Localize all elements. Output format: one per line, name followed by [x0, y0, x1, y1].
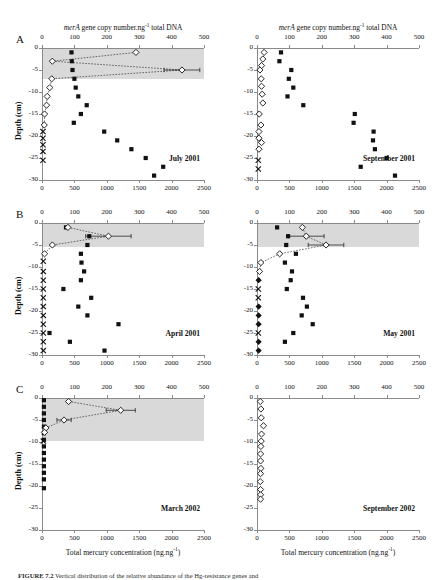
top-axis-tick	[204, 220, 205, 223]
y-axis-tick	[39, 508, 42, 509]
marker-filled-square	[283, 261, 287, 265]
bottom-axis-tick	[139, 530, 140, 533]
bottom-axis-tick-label: 1500	[340, 184, 368, 192]
marker-open-diamond	[257, 471, 263, 477]
y-axis-tick	[254, 48, 257, 49]
marker-filled-square	[79, 112, 83, 116]
y-axis-tick-label: -30	[16, 525, 38, 533]
top-axis-tick-label: 100	[60, 208, 88, 216]
y-axis-tick-label: -5	[231, 65, 253, 73]
top-axis-tick-label: 500	[405, 33, 433, 41]
bottom-axis-tick	[289, 180, 290, 183]
y-axis-tick-label: -30	[231, 350, 253, 358]
marker-filled-square	[82, 269, 86, 273]
y-axis-line	[257, 398, 258, 530]
bottom-axis-tick	[74, 180, 75, 183]
marker-open-diamond	[44, 93, 50, 99]
top-axis-tick-label: 400	[158, 208, 186, 216]
marker-filled-square	[47, 331, 51, 335]
bottom-axis-tick-label: 2000	[158, 184, 186, 192]
bottom-axis-tick	[74, 530, 75, 533]
marker-open-diamond	[257, 479, 263, 485]
bottom-axis-tick-label: 1500	[125, 184, 153, 192]
marker-filled-square	[352, 121, 356, 125]
y-axis-tick	[39, 267, 42, 268]
y-axis-tick	[39, 158, 42, 159]
top-axis-tick	[289, 45, 290, 48]
top-axis-tick-label: 500	[190, 383, 218, 391]
top-axis-line	[257, 48, 419, 49]
marker-filled-square	[301, 103, 305, 107]
y-axis-tick	[254, 158, 257, 159]
shade-band	[257, 223, 419, 247]
top-axis-tick	[172, 220, 173, 223]
top-axis-tick-label: 500	[405, 383, 433, 391]
top-axis-tick-label: 0	[28, 383, 56, 391]
panel-markers	[0, 0, 439, 580]
shade-band	[42, 223, 204, 247]
y-axis-tick-label: -25	[231, 328, 253, 336]
top-axis-tick	[204, 395, 205, 398]
bottom-axis-tick-label: 1500	[340, 359, 368, 367]
top-axis-title: merA gene copy number.ng-1 total DNA	[257, 22, 419, 32]
y-axis-tick-label: -30	[16, 175, 38, 183]
marker-filled-square	[289, 68, 293, 72]
panel-date-label: April 2001	[166, 329, 200, 338]
bottom-axis-tick	[204, 355, 205, 358]
marker-filled-square	[116, 322, 120, 326]
bottom-axis-tick	[139, 355, 140, 358]
top-axis-tick	[107, 220, 108, 223]
marker-open-diamond	[258, 443, 264, 449]
marker-filled-square	[373, 147, 377, 151]
top-axis-tick-label: 200	[93, 383, 121, 391]
bottom-axis-tick	[74, 355, 75, 358]
marker-open-diamond	[258, 415, 264, 421]
top-axis-tick-label: 100	[60, 383, 88, 391]
top-axis-tick-label: 300	[340, 208, 368, 216]
y-axis-tick-label: 0	[16, 393, 38, 401]
panel-date-label: September 2002	[363, 504, 415, 513]
marker-filled-square	[285, 287, 289, 291]
bottom-axis-tick	[257, 355, 258, 358]
marker-open-diamond	[258, 122, 264, 128]
y-axis-tick-label: 0	[16, 218, 38, 226]
panel-date-label: July 2001	[169, 154, 200, 163]
y-axis-tick	[39, 70, 42, 71]
bottom-axis-line	[42, 355, 204, 356]
y-axis-tick	[254, 180, 257, 181]
y-axis-tick-label: -5	[16, 240, 38, 248]
panel-date-label: September 2001	[363, 154, 415, 163]
top-axis-tick-label: 100	[60, 33, 88, 41]
bottom-axis-tick-label: 0	[243, 184, 271, 192]
y-axis-tick-label: -20	[231, 131, 253, 139]
bottom-axis-tick	[322, 530, 323, 533]
top-axis-tick	[107, 395, 108, 398]
y-axis-line	[42, 48, 43, 180]
marker-filled-square	[129, 147, 133, 151]
bottom-axis-tick	[257, 180, 258, 183]
bottom-axis-tick	[387, 180, 388, 183]
marker-open-diamond	[257, 492, 263, 498]
marker-filled-square	[287, 77, 291, 81]
y-axis-line	[257, 48, 258, 180]
marker-filled-square	[353, 112, 357, 116]
y-axis-tick-label: -10	[16, 262, 38, 270]
top-axis-tick	[354, 395, 355, 398]
top-axis-tick-label: 0	[28, 33, 56, 41]
bottom-axis-tick	[354, 180, 355, 183]
bottom-axis-tick	[204, 180, 205, 183]
y-axis-tick-label: -10	[231, 262, 253, 270]
top-axis-line	[257, 223, 419, 224]
y-axis-tick	[254, 245, 257, 246]
y-axis-tick	[39, 311, 42, 312]
y-axis-tick	[39, 136, 42, 137]
y-axis-tick	[254, 289, 257, 290]
marker-filled-square	[79, 278, 83, 282]
top-axis-tick-label: 400	[158, 33, 186, 41]
marker-filled-square	[279, 50, 283, 54]
bottom-axis-line	[257, 530, 419, 531]
marker-open-diamond	[258, 465, 264, 471]
y-axis-tick	[254, 420, 257, 421]
top-axis-title: merA gene copy number.ng-1 total DNA	[42, 22, 204, 32]
bottom-axis-tick	[172, 530, 173, 533]
